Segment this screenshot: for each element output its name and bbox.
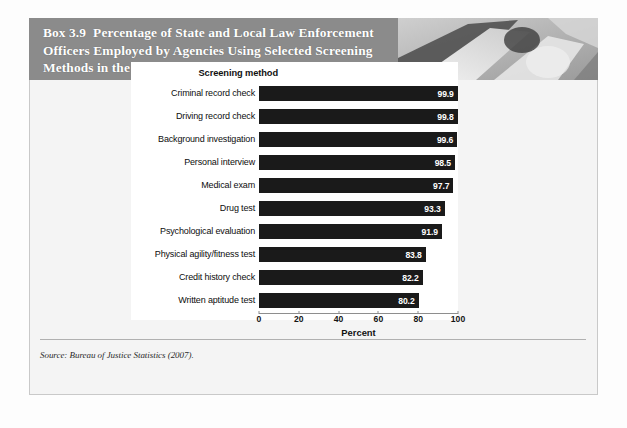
bar-value-label: 91.9 bbox=[422, 227, 438, 237]
source-note: Source: Bureau of Justice Statistics (20… bbox=[40, 350, 194, 360]
x-tick-label: 20 bbox=[294, 314, 304, 324]
chart-panel: Screening method Criminal record check99… bbox=[131, 62, 458, 320]
bar-category-label: Medical exam bbox=[131, 180, 255, 190]
bar-row: Background investigation99.6 bbox=[131, 129, 458, 152]
bar-row: Written aptitude test80.2 bbox=[131, 290, 458, 313]
bar-row: Criminal record check99.9 bbox=[131, 83, 458, 106]
bar-category-label: Driving record check bbox=[131, 111, 255, 121]
x-tick-label: 0 bbox=[257, 314, 262, 324]
bar: 93.3 bbox=[259, 201, 445, 216]
bar-row: Drug test93.3 bbox=[131, 198, 458, 221]
x-axis-label: Percent bbox=[259, 327, 458, 338]
x-axis-ticks: 020406080100 bbox=[259, 314, 458, 328]
bar-row: Driving record check99.8 bbox=[131, 106, 458, 129]
bar-value-label: 99.9 bbox=[437, 89, 453, 99]
bar-track: 99.6 bbox=[259, 132, 458, 147]
x-tick-label: 100 bbox=[451, 314, 465, 324]
x-tick-label: 40 bbox=[334, 314, 344, 324]
bar-track: 97.7 bbox=[259, 178, 458, 193]
bar-track: 99.8 bbox=[259, 109, 458, 124]
bar: 97.7 bbox=[259, 178, 453, 193]
bar-value-label: 83.8 bbox=[405, 250, 421, 260]
bar-value-label: 93.3 bbox=[424, 204, 440, 214]
bar-category-label: Psychological evaluation bbox=[131, 226, 255, 236]
bar-track: 99.9 bbox=[259, 86, 458, 101]
bar-value-label: 98.5 bbox=[435, 158, 451, 168]
bar: 91.9 bbox=[259, 224, 442, 239]
bar-chart: Screening method Criminal record check99… bbox=[131, 62, 458, 320]
bar: 99.6 bbox=[259, 132, 457, 147]
bar: 82.2 bbox=[259, 270, 423, 285]
x-tick-label: 60 bbox=[374, 314, 384, 324]
bar: 99.9 bbox=[259, 86, 458, 101]
bar-track: 80.2 bbox=[259, 293, 458, 308]
page-root: Box 3.9Percentage of State and Local Law… bbox=[0, 0, 627, 428]
x-tick-label: 80 bbox=[413, 314, 423, 324]
bar-track: 83.8 bbox=[259, 247, 458, 262]
bar-value-label: 82.2 bbox=[402, 273, 418, 283]
bar-category-label: Criminal record check bbox=[131, 88, 255, 98]
bar-rows: Criminal record check99.9Driving record … bbox=[131, 83, 458, 313]
source-divider bbox=[40, 339, 586, 340]
bar-value-label: 99.6 bbox=[437, 135, 453, 145]
bar-category-label: Personal interview bbox=[131, 157, 255, 167]
bar: 99.8 bbox=[259, 109, 458, 124]
bar-category-label: Credit history check bbox=[131, 272, 255, 282]
bar-track: 93.3 bbox=[259, 201, 458, 216]
bar-row: Psychological evaluation91.9 bbox=[131, 221, 458, 244]
bar: 98.5 bbox=[259, 155, 455, 170]
bar-category-label: Written aptitude test bbox=[131, 295, 255, 305]
bar-value-label: 97.7 bbox=[433, 181, 449, 191]
bar-track: 98.5 bbox=[259, 155, 458, 170]
bar-row: Personal interview98.5 bbox=[131, 152, 458, 175]
bar-row: Credit history check82.2 bbox=[131, 267, 458, 290]
bar-category-label: Background investigation bbox=[131, 134, 255, 144]
bar-value-label: 80.2 bbox=[398, 296, 414, 306]
bar-value-label: 99.8 bbox=[437, 112, 453, 122]
bar-category-label: Physical agility/fitness test bbox=[131, 249, 255, 259]
bar: 80.2 bbox=[259, 293, 419, 308]
bar-track: 82.2 bbox=[259, 270, 458, 285]
box-number: Box 3.9 bbox=[43, 25, 86, 40]
category-axis-title: Screening method bbox=[131, 68, 278, 78]
bar-category-label: Drug test bbox=[131, 203, 255, 213]
bar-track: 91.9 bbox=[259, 224, 458, 239]
bar-row: Physical agility/fitness test83.8 bbox=[131, 244, 458, 267]
bar: 83.8 bbox=[259, 247, 426, 262]
bar-row: Medical exam97.7 bbox=[131, 175, 458, 198]
